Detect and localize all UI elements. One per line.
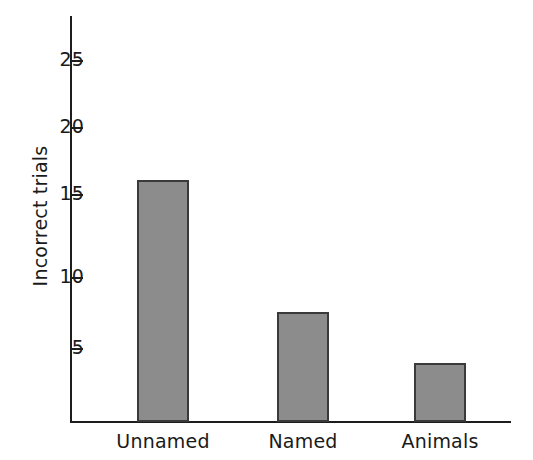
bar-named	[277, 312, 329, 422]
bar-chart: 25 20 15 10 5 Incorrect trials Unnamed N…	[0, 0, 533, 460]
y-tick-mark-15	[72, 194, 83, 196]
bar-unnamed	[137, 180, 189, 422]
x-label-named: Named	[233, 430, 373, 452]
x-label-animals: Animals	[370, 430, 510, 452]
y-tick-mark-10	[72, 277, 83, 279]
y-tick-mark-5	[72, 348, 83, 350]
x-label-unnamed: Unnamed	[93, 430, 233, 452]
y-axis-title: Incorrect trials	[29, 106, 51, 326]
bar-animals	[414, 363, 466, 422]
y-tick-mark-20	[72, 127, 83, 129]
y-axis-line	[70, 16, 72, 423]
y-tick-mark-25	[72, 60, 83, 62]
